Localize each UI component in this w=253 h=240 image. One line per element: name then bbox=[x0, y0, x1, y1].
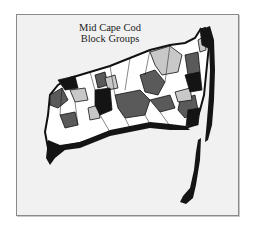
block-groups bbox=[45, 28, 210, 160]
monomoy-spit bbox=[180, 138, 201, 204]
title-line-2: Block Groups bbox=[62, 33, 158, 44]
title-line-1: Mid Cape Cod bbox=[62, 22, 158, 33]
map-title: Mid Cape Cod Block Groups bbox=[62, 22, 158, 44]
